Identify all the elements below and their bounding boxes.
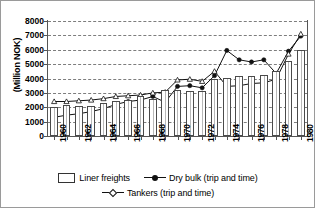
plot-right-border	[307, 20, 308, 137]
marker-filled-circle	[225, 48, 229, 52]
x-tick-mark	[252, 137, 253, 140]
legend-item-tankers[interactable]: Tankers (trip and time)	[102, 188, 214, 198]
y-tick-label: 2000	[12, 103, 44, 112]
bar-liner-freights	[223, 78, 231, 136]
legend-label-liner-freights: Liner freights	[79, 173, 130, 183]
marker-filled-circle	[188, 84, 192, 88]
y-tick-mark	[44, 122, 48, 123]
bar-inner-line	[227, 79, 228, 135]
marker-filled-circle	[262, 58, 266, 62]
chart-figure: (Million NOK) Liner freights Dry bulk (t…	[0, 0, 316, 209]
x-tick-label: 1960	[58, 124, 68, 142]
y-tick-mark	[44, 107, 48, 108]
bar-inner-line	[301, 51, 302, 135]
filled-circle-marker-icon	[144, 173, 166, 182]
x-tick-label: 1962	[83, 124, 93, 142]
marker-filled-circle	[249, 60, 253, 64]
y-tick-mark	[44, 35, 48, 36]
y-tick-label: 8000	[12, 17, 44, 26]
x-tick-label: 1970	[182, 124, 192, 142]
x-tick-mark	[301, 137, 302, 140]
bar-liner-freights	[50, 107, 58, 136]
marker-filled-circle	[212, 74, 216, 78]
legend-row-2: Tankers (trip and time)	[0, 185, 316, 200]
x-tick-label: 1980	[305, 124, 315, 142]
x-tick-mark	[178, 137, 179, 140]
y-tick-mark	[44, 79, 48, 80]
legend-label-dry-bulk: Dry bulk (trip and time)	[169, 173, 258, 183]
legend-item-dry-bulk[interactable]: Dry bulk (trip and time)	[144, 173, 258, 183]
legend-label-tankers: Tankers (trip and time)	[127, 188, 214, 198]
y-tick-label: 7000	[12, 31, 44, 40]
legend-row-1: Liner freights Dry bulk (trip and time)	[0, 170, 316, 185]
bar-liner-freights	[75, 106, 83, 136]
y-tick-label: 0	[12, 132, 44, 141]
x-tick-label: 1974	[231, 124, 241, 142]
x-tick-mark	[54, 137, 55, 140]
bar-swatch-icon	[58, 173, 75, 183]
x-tick-label: 1964	[108, 124, 118, 142]
y-tick-mark	[44, 50, 48, 51]
bar-liner-freights	[124, 100, 132, 136]
y-tick-mark	[44, 136, 48, 137]
bar-inner-line	[79, 107, 80, 135]
y-tick-mark	[44, 93, 48, 94]
x-tick-mark	[153, 137, 154, 140]
bar-inner-line	[177, 91, 178, 135]
y-tick-label: 3000	[12, 89, 44, 98]
y-tick-label: 6000	[12, 46, 44, 55]
bar-inner-line	[153, 100, 154, 135]
x-tick-label: 1968	[157, 124, 167, 142]
marker-filled-circle	[237, 58, 241, 62]
bar-inner-line	[251, 77, 252, 135]
bar-liner-freights	[198, 91, 206, 136]
x-tick-label: 1966	[132, 124, 142, 142]
x-tick-mark	[276, 137, 277, 140]
x-tick-label: 1978	[280, 124, 290, 142]
x-tick-mark	[104, 137, 105, 140]
x-tick-label: 1972	[206, 124, 216, 142]
chart-legend: Liner freights Dry bulk (trip and time) …	[0, 170, 316, 200]
bar-inner-line	[276, 72, 277, 135]
y-tick-label: 5000	[12, 60, 44, 69]
y-tick-mark	[44, 64, 48, 65]
bar-inner-line	[128, 101, 129, 135]
bar-liner-freights	[272, 71, 280, 136]
legend-item-liner-freights[interactable]: Liner freights	[58, 173, 130, 183]
y-tick-label: 4000	[12, 75, 44, 84]
x-tick-label: 1976	[256, 124, 266, 142]
bar-inner-line	[103, 104, 104, 135]
bar-liner-freights	[149, 99, 157, 136]
bar-liner-freights	[174, 90, 182, 136]
x-tick-mark	[79, 137, 80, 140]
x-tick-mark	[227, 137, 228, 140]
marker-open-triangle	[298, 31, 303, 36]
bar-liner-freights	[297, 50, 305, 136]
bar-inner-line	[54, 108, 55, 135]
bar-liner-freights	[100, 103, 108, 136]
x-tick-mark	[128, 137, 129, 140]
bar-liner-freights	[248, 76, 256, 136]
y-tick-mark	[44, 21, 48, 22]
y-tick-label: 1000	[12, 118, 44, 127]
marker-filled-circle	[175, 84, 179, 88]
x-tick-mark	[202, 137, 203, 140]
marker-filled-circle	[200, 86, 204, 90]
open-triangle-marker-icon	[102, 188, 124, 197]
bar-inner-line	[202, 92, 203, 135]
